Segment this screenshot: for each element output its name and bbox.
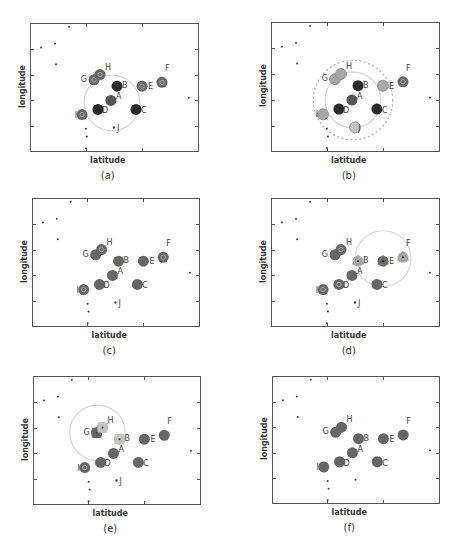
panel-caption: (e) [103, 523, 117, 534]
background-point [327, 311, 329, 313]
background-point [327, 135, 329, 137]
background-point [328, 488, 330, 490]
y-axis-label: longitude [21, 417, 30, 461]
node-label: D [105, 459, 111, 468]
node-label: I [76, 286, 78, 295]
node-label: D [343, 281, 349, 290]
background-point [70, 201, 72, 203]
scatter-plot: ABCDEFGHI [272, 376, 440, 504]
background-point [295, 218, 297, 220]
x-axis-label: latitude [331, 331, 366, 340]
node-H: H [336, 415, 353, 433]
node-label: A [357, 92, 363, 101]
background-point [42, 222, 44, 224]
node-I: I [316, 109, 329, 120]
node-label: A [357, 445, 363, 454]
panel-caption: (d) [342, 345, 356, 356]
node-label: J [357, 299, 360, 308]
node-label: I [316, 463, 318, 472]
node-J: J [349, 122, 360, 134]
background-point [310, 379, 312, 381]
node-E: E [139, 434, 156, 445]
node-E: E [378, 433, 395, 444]
node-B: B [353, 433, 369, 444]
y-axis-label: longitude [259, 64, 268, 108]
node-label: J [117, 299, 120, 308]
node-label: H [347, 415, 353, 424]
node-label: E [389, 435, 394, 444]
background-point [327, 499, 329, 501]
node-I: I [77, 462, 90, 473]
node-H: H [335, 238, 352, 256]
background-point [189, 272, 191, 274]
node-label: J [118, 477, 121, 486]
background-point [56, 218, 58, 220]
node-label: A [118, 445, 124, 454]
background-point [354, 479, 356, 481]
node-label: D [343, 106, 349, 115]
background-point [282, 399, 284, 401]
y-axis-label: longitude [20, 239, 29, 283]
background-point [88, 311, 90, 313]
node-I: I [76, 284, 89, 295]
background-point [309, 201, 311, 203]
node-label: E [150, 435, 155, 444]
node-J: J [354, 299, 361, 308]
background-point [88, 500, 90, 502]
node-H: H [96, 238, 113, 256]
node-F: F [397, 239, 411, 263]
panel-f: longitudelatitude(f)ABCDEFGHI [0, 0, 230, 184]
background-point [71, 379, 73, 381]
node-label: C [382, 459, 388, 468]
node-J: J [115, 477, 122, 486]
panel-caption: (f) [344, 522, 355, 533]
node-label: E [149, 257, 154, 266]
panel-caption: (c) [103, 345, 116, 356]
background-point [58, 416, 60, 418]
node-A: A [347, 445, 364, 459]
node-label: D [344, 459, 350, 468]
node-B: B [114, 434, 130, 445]
node-A: A [108, 445, 125, 459]
background-point [57, 238, 59, 240]
node-label: B [364, 434, 370, 443]
node-A: A [107, 267, 124, 281]
background-point [297, 416, 299, 418]
node-A: A [346, 92, 363, 106]
background-point [87, 303, 89, 305]
background-point [88, 481, 90, 483]
node-B: B [113, 256, 129, 267]
node-label: A [357, 267, 363, 276]
node-I: I [316, 461, 329, 472]
node-F: F [398, 417, 412, 441]
background-point [429, 449, 431, 451]
background-point [326, 322, 328, 324]
node-C: C [371, 279, 388, 291]
node-D: D [94, 279, 110, 291]
x-axis-label: latitude [92, 331, 127, 340]
node-F: F [159, 417, 173, 441]
node-D: D [333, 104, 349, 116]
node-label: H [346, 238, 352, 247]
node-E: E [378, 255, 395, 267]
node-H: H [335, 62, 352, 80]
node-label: I [316, 110, 318, 119]
node-label: F [406, 239, 411, 248]
node-A: A [346, 267, 363, 281]
node-label: F [406, 64, 411, 73]
scatter-plot: ABCDEFGHIJ [271, 198, 440, 327]
node-label: G [83, 428, 89, 437]
node-J: J [114, 299, 121, 308]
node-B: B [353, 255, 369, 267]
background-point [296, 63, 298, 65]
node-label: J [357, 124, 360, 133]
node-B: B [353, 80, 369, 91]
panel-caption: (b) [342, 170, 356, 181]
background-point [87, 322, 89, 324]
node-label: F [406, 417, 411, 426]
node-D: D [334, 456, 350, 468]
node-label: C [382, 106, 388, 115]
x-axis-label: latitude [93, 509, 128, 518]
background-point [309, 25, 311, 27]
scatter-plot: ABCDEFGHIJ [33, 376, 201, 505]
